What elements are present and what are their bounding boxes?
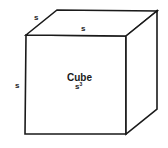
cube-corner-dot [156, 10, 158, 12]
cube-volume-formula: s3 [75, 83, 82, 91]
edge-label-left-side: s [15, 82, 19, 90]
cube-diagram: s s s Cube s3 [0, 0, 168, 148]
edge-label-top-diagonal: s [34, 14, 38, 22]
formula-exponent: 3 [79, 81, 82, 87]
edge-label-top-front: s [81, 25, 85, 33]
